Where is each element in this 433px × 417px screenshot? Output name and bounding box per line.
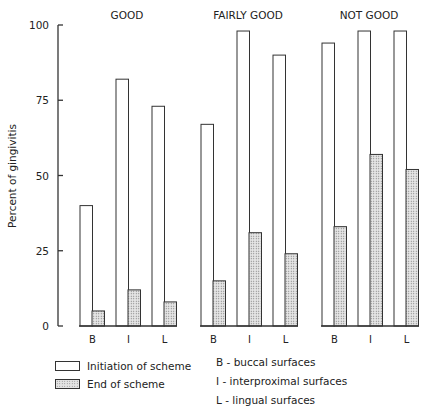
chart-panels: GOODBILFAIRLY GOODBILNOT GOODBIL <box>79 9 419 345</box>
legend-item-initiation: Initiation of scheme <box>55 357 191 375</box>
bar-l-end <box>164 302 177 326</box>
key-buccal: B - buccal surfaces <box>216 353 347 372</box>
bar-i-initiation <box>237 31 250 326</box>
bar-l-end <box>406 169 419 326</box>
bar-i-end <box>249 233 262 326</box>
y-axis-label: Percent of gingivitis <box>6 124 18 228</box>
panel-not-good: NOT GOODBIL <box>321 9 419 345</box>
y-tick-label: 0 <box>42 320 49 332</box>
x-category-label: I <box>369 334 372 345</box>
legend-label-end: End of scheme <box>87 378 165 390</box>
legend: Initiation of scheme End of scheme <box>55 357 191 393</box>
bar-i-initiation <box>358 31 371 326</box>
y-axis: 0255075100 <box>29 19 63 332</box>
x-category-label: B <box>331 334 338 345</box>
y-tick-label: 100 <box>29 19 49 31</box>
bar-i-end <box>128 290 141 326</box>
stippled-bar-swatch-icon <box>55 379 80 389</box>
bar-l-end <box>285 254 298 326</box>
key-lingual: L - lingual surfaces <box>216 391 347 410</box>
bar-l-initiation <box>152 106 165 326</box>
legend-label-initiation: Initiation of scheme <box>87 360 191 372</box>
panel-fairly-good: FAIRLY GOODBIL <box>200 9 298 345</box>
bar-l-initiation <box>273 55 286 326</box>
surface-key: B - buccal surfaces I - interproximal su… <box>216 353 347 410</box>
x-category-label: B <box>89 334 96 345</box>
bar-b-end <box>334 227 347 326</box>
panel-good: GOODBIL <box>79 9 177 345</box>
bar-i-initiation <box>116 79 129 326</box>
y-tick-label: 75 <box>36 94 49 106</box>
bar-i-end <box>370 154 383 326</box>
x-category-label: I <box>127 334 130 345</box>
bar-b-initiation <box>201 124 214 326</box>
legend-item-end: End of scheme <box>55 375 191 393</box>
x-category-label: I <box>248 334 251 345</box>
gingivitis-bar-chart: 0255075100 Percent of gingivitis GOODBIL… <box>0 0 433 345</box>
bar-l-initiation <box>394 31 407 326</box>
x-category-label: L <box>283 334 289 345</box>
x-category-label: B <box>210 334 217 345</box>
bar-b-initiation <box>80 206 93 326</box>
x-category-label: L <box>162 334 168 345</box>
open-bar-swatch-icon <box>55 361 80 371</box>
panel-title: NOT GOOD <box>340 9 399 21</box>
y-tick-label: 50 <box>36 170 49 182</box>
panel-title: FAIRLY GOOD <box>213 9 283 21</box>
key-interproximal: I - interproximal surfaces <box>216 372 347 391</box>
y-tick-label: 25 <box>36 245 49 257</box>
bar-b-end <box>213 281 226 326</box>
panel-title: GOOD <box>111 9 144 21</box>
bar-b-end <box>92 311 105 326</box>
bar-b-initiation <box>322 43 335 326</box>
x-category-label: L <box>404 334 410 345</box>
